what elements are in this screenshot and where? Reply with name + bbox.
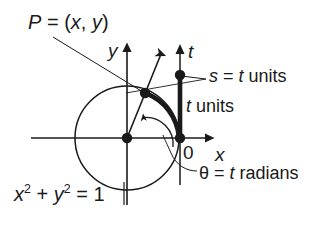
point-p-dot xyxy=(140,88,150,98)
y-axis-arrowhead xyxy=(122,43,131,53)
label-point-p: P = (x, y) xyxy=(28,12,109,32)
x-axis-arrowhead xyxy=(205,133,215,142)
label-x-axis: x xyxy=(215,145,225,164)
label-circle-equation: x2 + y2 = 1 xyxy=(14,183,105,204)
angle-theta-arc xyxy=(144,117,174,147)
leader-line-s-2 xyxy=(126,79,206,93)
label-arc-length: s = t units xyxy=(209,67,287,85)
label-angle-theta: θ = t radians xyxy=(199,164,299,182)
label-t-axis: t xyxy=(188,42,193,61)
origin-dot xyxy=(122,133,132,143)
point-t-dot xyxy=(175,70,185,80)
figure-container: P = (x, y) y t s = t units t units 0 x θ… xyxy=(0,0,331,228)
label-segment-length: t units xyxy=(186,97,234,115)
label-y-axis: y xyxy=(108,41,118,60)
label-origin-mark: 0 xyxy=(183,143,194,162)
leader-line-p xyxy=(53,37,143,92)
t-axis-arrowhead xyxy=(176,44,185,54)
